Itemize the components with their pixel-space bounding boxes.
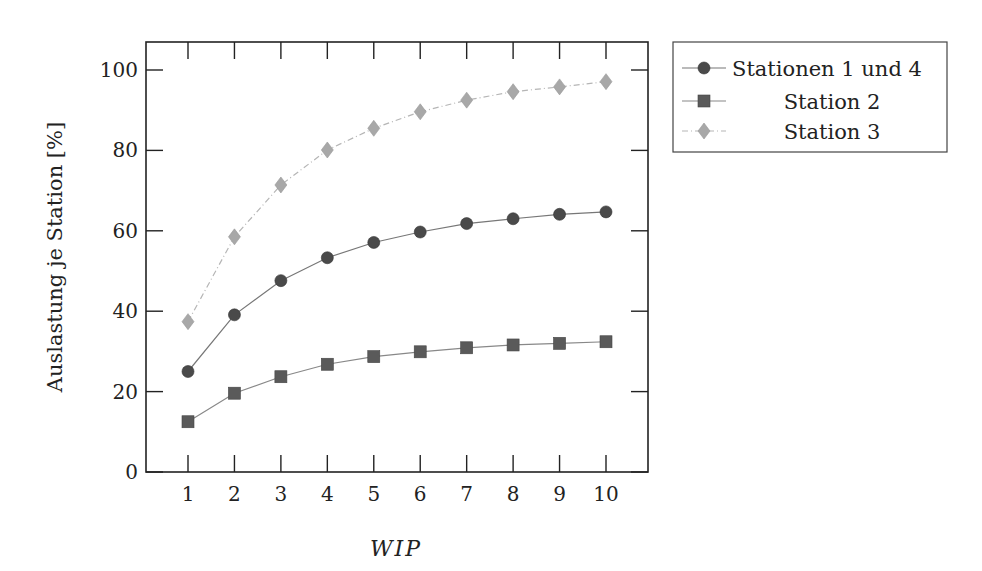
x-tick-label: 1 [182,482,195,506]
diamond-marker-icon [507,84,519,100]
series-line [188,212,606,372]
y-tick-label: 40 [113,299,138,323]
circle-marker-icon [554,208,566,220]
circle-marker-icon [321,252,333,264]
diamond-marker-icon [554,79,566,95]
plot-area [182,74,612,428]
y-tick-label: 80 [113,138,138,162]
diamond-marker-icon [321,142,333,158]
legend-label: Stationen 1 und 4 [732,57,922,81]
plot-frame [146,42,648,472]
x-axis-title: WIP [370,536,422,561]
x-tick-label: 4 [321,482,334,506]
circle-marker-icon [275,275,287,287]
diamond-marker-icon [228,229,240,245]
square-marker-icon [507,339,519,351]
square-marker-icon [414,346,426,358]
x-tick-label: 10 [593,482,618,506]
x-tick-label: 2 [228,482,241,506]
x-tick-label: 8 [507,482,520,506]
circle-marker-icon [698,62,710,74]
x-tick-label: 7 [460,482,473,506]
square-marker-icon [321,358,333,370]
square-marker-icon [698,95,710,107]
legend-label: Station 3 [784,120,881,144]
x-tick-label: 9 [553,482,566,506]
x-tick-label: 5 [367,482,380,506]
diamond-marker-icon [414,104,426,120]
series-line [188,82,606,322]
y-tick-label: 100 [100,58,138,82]
legend: Stationen 1 und 4Station 2Station 3 [673,42,947,152]
circle-marker-icon [507,213,519,225]
circle-marker-icon [228,309,240,321]
circle-marker-icon [414,226,426,238]
diamond-marker-icon [600,74,612,90]
square-marker-icon [368,351,380,363]
circle-marker-icon [461,218,473,230]
series-line [188,342,606,422]
diamond-marker-icon [275,177,287,193]
series-1 [182,206,612,378]
square-marker-icon [228,387,240,399]
square-marker-icon [554,337,566,349]
diamond-marker-icon [368,120,380,136]
circle-marker-icon [600,206,612,218]
x-tick-label: 3 [275,482,288,506]
series-3 [182,74,612,330]
square-marker-icon [275,371,287,383]
square-marker-icon [600,336,612,348]
diamond-marker-icon [461,92,473,108]
y-tick-label: 0 [125,460,138,484]
diamond-marker-icon [182,314,194,330]
square-marker-icon [461,342,473,354]
square-marker-icon [182,416,194,428]
y-axis-title: Auslastung je Station [%] [43,122,67,393]
circle-marker-icon [368,236,380,248]
circle-marker-icon [182,366,194,378]
line-chart: 12345678910020406080100 Auslastung je St… [0,0,982,571]
x-tick-label: 6 [414,482,427,506]
series-2 [182,336,612,428]
axes: 12345678910020406080100 [100,42,648,506]
y-tick-label: 20 [113,380,138,404]
y-tick-label: 60 [113,219,138,243]
legend-label: Station 2 [784,90,881,114]
